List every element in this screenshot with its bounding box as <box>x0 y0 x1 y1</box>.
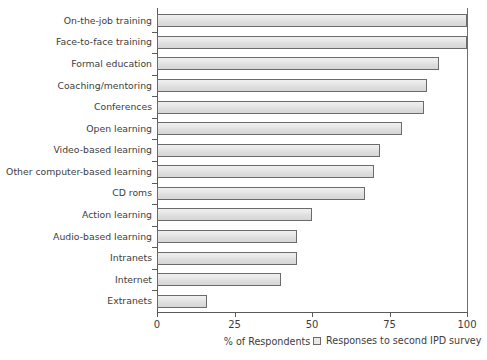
bar-row <box>157 53 467 75</box>
y-axis-tick <box>152 53 157 54</box>
bar-row <box>157 204 467 226</box>
y-axis-tick <box>152 226 157 227</box>
bar-row <box>157 139 467 161</box>
x-axis-tick <box>390 312 391 317</box>
bar-row <box>157 269 467 291</box>
y-axis-tick <box>152 96 157 97</box>
y-axis-tick <box>152 139 157 140</box>
bar-row <box>157 161 467 183</box>
bar <box>157 144 380 157</box>
y-axis-tick <box>152 204 157 205</box>
bar <box>157 252 297 265</box>
y-axis-tick <box>152 75 157 76</box>
y-axis-tick <box>152 247 157 248</box>
category-label: CD roms <box>0 188 152 198</box>
x-axis-tick-label: 0 <box>154 319 160 330</box>
legend-swatch-icon <box>313 337 321 345</box>
y-axis-tick <box>152 32 157 33</box>
x-axis-tick <box>235 312 236 317</box>
category-label: Formal education <box>0 59 152 69</box>
bar-rows <box>157 10 467 312</box>
x-axis-tick-label: 25 <box>228 319 241 330</box>
category-label: Coaching/mentoring <box>0 81 152 91</box>
category-label: Face-to-face training <box>0 37 152 47</box>
category-label: Internet <box>0 275 152 285</box>
bar <box>157 122 402 135</box>
bar <box>157 14 467 27</box>
legend: Responses to second IPD survey <box>313 335 481 346</box>
category-label: Action learning <box>0 210 152 220</box>
bar-row <box>157 247 467 269</box>
bar <box>157 208 312 221</box>
bar-row <box>157 75 467 97</box>
bar-row <box>157 290 467 312</box>
bar-row <box>157 183 467 205</box>
x-axis-tick <box>312 312 313 317</box>
bar-row <box>157 32 467 54</box>
y-axis-tick <box>152 118 157 119</box>
category-label: Intranets <box>0 253 152 263</box>
y-axis-tick <box>152 161 157 162</box>
bar <box>157 230 297 243</box>
y-axis-tick <box>152 290 157 291</box>
category-label: Other computer-based learning <box>0 167 152 177</box>
bar-row <box>157 10 467 32</box>
bar <box>157 187 365 200</box>
x-axis-tick-label: 50 <box>306 319 319 330</box>
category-label: Conferences <box>0 102 152 112</box>
bar <box>157 273 281 286</box>
plot-area <box>157 10 467 312</box>
x-axis-tick <box>467 312 468 317</box>
category-label: Extranets <box>0 296 152 306</box>
bar-row <box>157 96 467 118</box>
bar <box>157 36 467 49</box>
legend-label: Responses to second IPD survey <box>326 335 481 346</box>
category-label: Audio-based learning <box>0 232 152 242</box>
category-label: Open learning <box>0 124 152 134</box>
plot-right-border <box>467 8 468 312</box>
bar-chart: On-the-job trainingFace-to-face training… <box>0 0 487 360</box>
bar <box>157 79 427 92</box>
category-label: On-the-job training <box>0 16 152 26</box>
x-axis-tick-label: 100 <box>457 319 476 330</box>
category-label: Video-based learning <box>0 145 152 155</box>
bar <box>157 101 424 114</box>
category-axis-labels: On-the-job trainingFace-to-face training… <box>0 10 152 312</box>
bar-row <box>157 226 467 248</box>
y-axis-tick <box>152 183 157 184</box>
bar <box>157 165 374 178</box>
bar-row <box>157 118 467 140</box>
bar <box>157 295 207 308</box>
y-axis-tick <box>152 269 157 270</box>
x-axis-tick-label: 75 <box>383 319 396 330</box>
bar <box>157 57 439 70</box>
x-axis-tick <box>157 312 158 317</box>
